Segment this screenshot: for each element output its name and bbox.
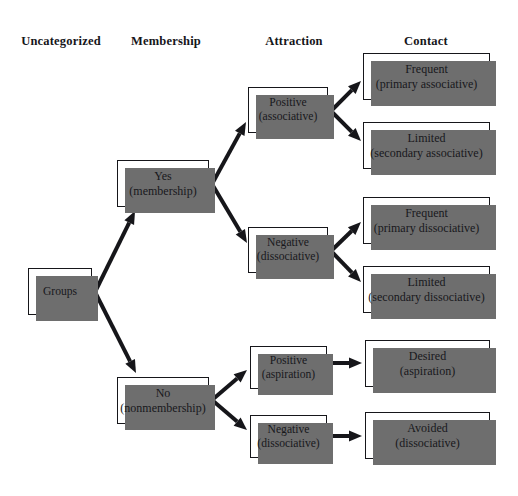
node-label-primary: Groups [43, 285, 77, 299]
arrow-positive-aspiration-to-desired [331, 358, 362, 369]
arrow-no-to-negative-dissociative-2 [211, 398, 247, 430]
node-no-nonmembership: No(nonmembership) [117, 377, 209, 424]
node-label-secondary: (associative) [259, 110, 318, 124]
node-label-primary: No [156, 386, 171, 400]
column-header-membership: Membership [131, 34, 201, 49]
arrow-negative-dissoc-to-limited [330, 250, 361, 282]
node-frequent-primary-dissociative: Frequent(primary dissociative) [363, 197, 490, 244]
node-label-primary: Avoided [407, 421, 447, 435]
arrow-yes-to-positive-associative [210, 122, 246, 185]
node-label-primary: Yes [154, 169, 171, 183]
node-desired-aspiration: Desired(aspiration) [365, 340, 490, 387]
node-label-primary: Frequent [405, 206, 448, 220]
arrow-groups-to-yes [93, 211, 135, 293]
node-label-secondary: (dissociative) [257, 437, 319, 451]
node-negative-dissociative-2: Negative(dissociative) [250, 415, 327, 458]
node-label-secondary: (primary dissociative) [374, 221, 480, 235]
arrow-yes-to-negative-dissociative [210, 183, 247, 243]
node-frequent-primary-associative: Frequent(primary associative) [363, 53, 490, 100]
node-label-secondary: (secondary dissociative) [368, 290, 484, 304]
arrow-groups-to-no [93, 291, 136, 373]
node-label-primary: Limited [408, 131, 446, 145]
node-label-secondary: (dissociative) [257, 250, 319, 264]
node-avoided-dissociative: Avoided(dissociative) [365, 412, 490, 459]
column-header-contact: Contact [404, 34, 448, 49]
node-label-secondary: (dissociative) [395, 436, 460, 450]
node-limited-secondary-dissociative: Limited(secondary dissociative) [363, 266, 490, 313]
node-positive-associative: Positive(associative) [248, 87, 328, 133]
node-yes-membership: Yes(membership) [117, 160, 209, 207]
node-groups: Groups [28, 268, 92, 315]
node-label-secondary: (primary associative) [376, 77, 478, 91]
node-label-primary: Negative [268, 423, 310, 437]
node-label-secondary: (aspiration) [400, 364, 455, 378]
arrow-negative-dissoc-2-to-avoided [331, 431, 362, 442]
column-header-attraction: Attraction [265, 34, 323, 49]
node-label-secondary: (membership) [129, 184, 196, 198]
node-label-secondary: (aspiration) [262, 368, 315, 382]
node-label-primary: Positive [269, 96, 306, 110]
arrow-positive-assoc-to-frequent [330, 81, 361, 112]
node-label-secondary: (secondary associative) [370, 146, 482, 160]
node-label-primary: Frequent [405, 62, 448, 76]
node-negative-dissociative: Negative(dissociative) [248, 227, 328, 273]
node-limited-secondary-associative: Limited(secondary associative) [363, 122, 490, 169]
arrow-positive-assoc-to-limited [330, 110, 361, 141]
node-label-primary: Limited [408, 275, 446, 289]
node-label-primary: Desired [409, 349, 446, 363]
node-positive-aspiration: Positive(aspiration) [250, 346, 327, 389]
node-label-primary: Positive [270, 354, 307, 368]
flowchart-diagram: UncategorizedMembershipAttractionContact… [0, 0, 518, 496]
arrow-negative-dissoc-to-frequent [330, 222, 361, 252]
column-header-uncategorized: Uncategorized [21, 34, 101, 49]
node-label-secondary: (nonmembership) [120, 401, 205, 415]
arrow-no-to-positive-aspiration [211, 370, 247, 402]
node-label-primary: Negative [267, 236, 309, 250]
